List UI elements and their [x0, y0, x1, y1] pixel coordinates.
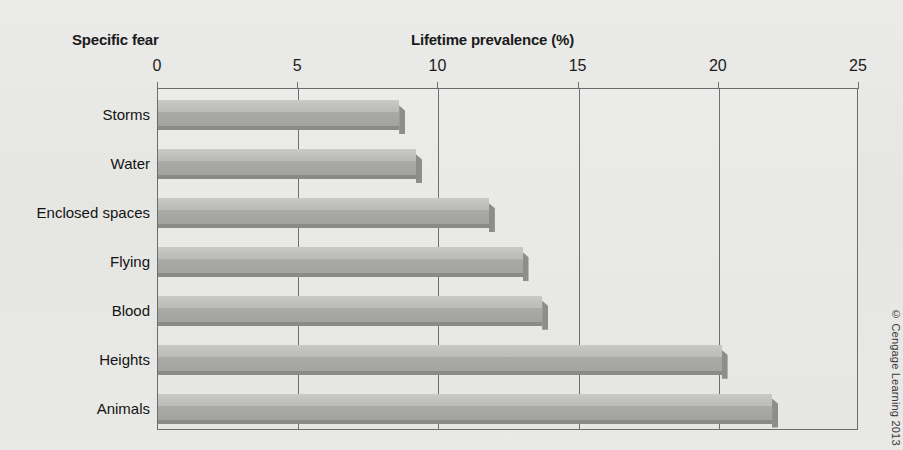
bar-highlight — [158, 256, 523, 259]
bar-end-cap — [772, 399, 778, 428]
bar-top-face — [158, 296, 542, 305]
x-tickmark-25 — [858, 82, 859, 89]
bar-top-face — [158, 198, 489, 207]
bar-end-cap — [399, 105, 405, 134]
bar-top-face — [158, 100, 399, 109]
bar-bottom-edge — [158, 224, 489, 228]
x-tick-label-0: 0 — [153, 57, 162, 75]
bar-end-cap — [523, 252, 529, 281]
bar-highlight — [158, 158, 416, 161]
bar-bottom-edge — [158, 420, 772, 424]
bar-top-face — [158, 149, 416, 158]
bar-storms — [158, 100, 399, 130]
category-label-enclosed-spaces: Enclosed spaces — [37, 204, 150, 221]
bar-water — [158, 149, 416, 179]
bar-top-face — [158, 247, 523, 256]
category-label-blood: Blood — [112, 301, 150, 318]
bar-end-cap — [542, 301, 548, 330]
bar-flying — [158, 247, 523, 277]
category-label-storms: Storms — [102, 106, 150, 123]
gridline-15 — [579, 89, 580, 429]
bar-animals — [158, 394, 772, 424]
x-tick-label-25: 25 — [849, 57, 867, 75]
bar-highlight — [158, 109, 399, 112]
category-label-flying: Flying — [110, 253, 150, 270]
x-tick-label-15: 15 — [569, 57, 587, 75]
bar-heights — [158, 345, 722, 375]
gridline-20 — [719, 89, 720, 429]
chart-page: Specific fear Lifetime prevalence (%) 05… — [0, 0, 903, 450]
bar-highlight — [158, 354, 722, 357]
bar-end-cap — [722, 350, 728, 379]
bar-enclosed-spaces — [158, 198, 489, 228]
x-tick-label-10: 10 — [428, 57, 446, 75]
category-label-animals: Animals — [97, 399, 150, 416]
category-label-heights: Heights — [99, 350, 150, 367]
plot-area — [157, 88, 858, 430]
bar-highlight — [158, 403, 772, 406]
copyright-notice: © Cengage Learning 2013 — [890, 308, 902, 446]
bar-blood — [158, 296, 542, 326]
bar-top-face — [158, 345, 722, 354]
bar-highlight — [158, 305, 542, 308]
bar-end-cap — [416, 154, 422, 183]
bar-bottom-edge — [158, 273, 523, 277]
category-label-layer: StormsWaterEnclosed spacesFlyingBloodHei… — [0, 88, 150, 430]
category-axis-title: Specific fear — [72, 31, 159, 48]
value-axis-title: Lifetime prevalence (%) — [411, 31, 574, 48]
x-tick-label-5: 5 — [293, 57, 302, 75]
bar-top-face — [158, 394, 772, 403]
bar-bottom-edge — [158, 126, 399, 130]
bar-bottom-edge — [158, 371, 722, 375]
x-tick-label-20: 20 — [709, 57, 727, 75]
bar-bottom-edge — [158, 322, 542, 326]
bar-bottom-edge — [158, 175, 416, 179]
category-label-water: Water — [111, 155, 150, 172]
bar-highlight — [158, 207, 489, 210]
bar-end-cap — [489, 203, 495, 232]
